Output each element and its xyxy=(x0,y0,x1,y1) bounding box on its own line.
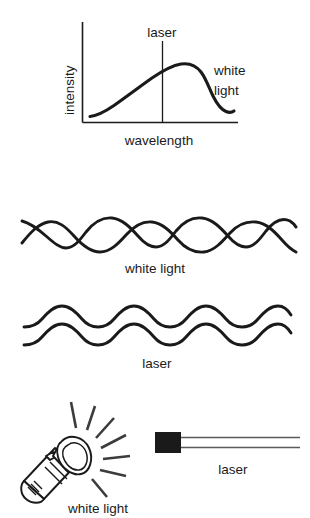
laser-wave-lower xyxy=(24,324,291,345)
light-sources-svg: white light laser xyxy=(0,386,310,518)
light-ray xyxy=(101,435,126,448)
light-ray xyxy=(92,479,107,497)
spectrum-chart-panel: intensity wavelength laser white light xyxy=(0,0,310,160)
spectrum-chart-svg: intensity wavelength laser white light xyxy=(0,0,310,160)
light-ray xyxy=(87,406,95,430)
y-axis-label: intensity xyxy=(62,65,77,115)
laser-beam xyxy=(181,438,300,448)
light-sources-panel: white light laser xyxy=(0,386,310,518)
light-ray xyxy=(100,470,126,476)
flashlight-caption: white light xyxy=(67,501,128,516)
laser-pointer-icon xyxy=(155,432,181,453)
light-ray xyxy=(103,456,130,459)
laser-annotation-label: laser xyxy=(147,25,177,40)
laser-source-caption: laser xyxy=(218,462,248,477)
white-light-wave-caption: white light xyxy=(124,261,185,276)
light-ray xyxy=(96,418,114,438)
light-ray xyxy=(71,402,76,428)
white-light-wave-panel: white light xyxy=(0,190,310,285)
laser-wave-caption: laser xyxy=(142,356,172,371)
white-light-annotation-line1: white xyxy=(213,63,246,78)
laser-pointer-body xyxy=(155,432,181,453)
x-axis-label: wavelength xyxy=(124,133,193,148)
white-light-wave-svg: white light xyxy=(0,190,310,285)
white-light-annotation-line2: light xyxy=(214,83,239,98)
laser-vs-white-light-diagram: intensity wavelength laser white light w… xyxy=(0,0,310,518)
laser-wave-svg: laser xyxy=(0,296,310,381)
laser-wave-panel: laser xyxy=(0,296,310,381)
flashlight-icon xyxy=(21,437,91,503)
